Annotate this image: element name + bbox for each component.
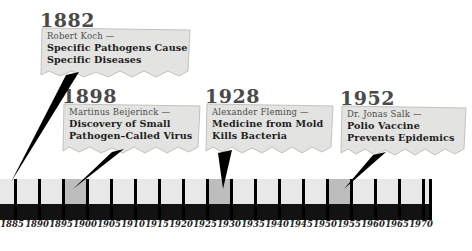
callout-1952-person: Dr. Jonas Salk — <box>347 109 460 120</box>
callout-1898-text: Martinus Beijerinck — Discovery of Small… <box>62 103 202 151</box>
callout-1882-year: 1882 <box>40 10 192 30</box>
callout-1898-year: 1898 <box>62 86 202 106</box>
ruler-highlight-1898 <box>64 179 88 204</box>
tick-label-1910: 1910 <box>121 219 145 230</box>
timeline-infographic: 1885 1890 1895 1900 1905 1910 1915 1920 … <box>0 0 472 251</box>
ruler-tick-label-group: 1885 1890 1895 1900 1905 1910 1915 1920 … <box>0 219 472 237</box>
callout-1928-year: 1928 <box>205 86 335 106</box>
tick-label-1940: 1940 <box>265 219 289 230</box>
callout-1898[interactable]: 1898 Martinus Beijerinck — Discovery of … <box>62 86 202 159</box>
callout-1928-headline-line1: Medicine from Mold <box>212 118 327 130</box>
callout-1882-person: Robert Koch — <box>47 31 184 42</box>
tick-label-1930: 1930 <box>217 219 241 230</box>
tick-label-1920: 1920 <box>169 219 193 230</box>
callout-1952-year: 1952 <box>340 88 468 108</box>
tick-label-1885: 1885 <box>0 219 24 230</box>
callout-1952-headline-line1: Polio Vaccine <box>347 120 460 132</box>
tick-label-1895: 1895 <box>49 219 73 230</box>
tick-label-1900: 1900 <box>73 219 97 230</box>
tick-label-1935: 1935 <box>241 219 265 230</box>
tick-label-1890: 1890 <box>25 219 49 230</box>
callout-1928-headline-line2: Kills Bacteria <box>212 130 327 142</box>
callout-1898-person: Martinus Beijerinck — <box>69 107 194 118</box>
callout-1952-headline-line2: Prevents Epidemics <box>347 132 460 144</box>
callout-1898-paper: Martinus Beijerinck — Discovery of Small… <box>62 103 202 159</box>
ruler-highlight-1928 <box>208 179 232 204</box>
tick-label-1945: 1945 <box>289 219 313 230</box>
callout-1898-headline-line2: Pathogen–Called Virus <box>69 130 194 142</box>
callout-1882-paper: Robert Koch — Specific Pathogens Cause S… <box>40 27 192 83</box>
callout-1928[interactable]: 1928 Alexander Fleming — Medicine from M… <box>205 86 335 159</box>
callout-1952-text: Dr. Jonas Salk — Polio Vaccine Prevents … <box>340 105 468 153</box>
callout-1952[interactable]: 1952 Dr. Jonas Salk — Polio Vaccine Prev… <box>340 88 468 161</box>
callout-1882-headline-line2: Specific Diseases <box>47 54 184 66</box>
callout-1928-paper: Alexander Fleming — Medicine from Mold K… <box>205 103 335 159</box>
tick-label-1960: 1960 <box>361 219 385 230</box>
ruler-graphic <box>0 179 472 251</box>
ruler-highlight-1952 <box>328 179 352 204</box>
callout-1882-text: Robert Koch — Specific Pathogens Cause S… <box>40 27 192 75</box>
callout-1882-headline-line1: Specific Pathogens Cause <box>47 42 184 54</box>
tick-label-1915: 1915 <box>145 219 169 230</box>
tick-label-1965: 1965 <box>385 219 409 230</box>
callout-1898-headline-line1: Discovery of Small <box>69 118 194 130</box>
timeline-ruler: 1885 1890 1895 1900 1905 1910 1915 1920 … <box>0 179 472 251</box>
tick-label-1925: 1925 <box>193 219 217 230</box>
callout-1952-paper: Dr. Jonas Salk — Polio Vaccine Prevents … <box>340 105 468 161</box>
callout-1928-person: Alexander Fleming — <box>212 107 327 118</box>
tick-label-1955: 1955 <box>337 219 361 230</box>
tick-label-1905: 1905 <box>97 219 121 230</box>
tick-label-1950: 1950 <box>313 219 337 230</box>
callout-1882[interactable]: 1882 Robert Koch — Specific Pathogens Ca… <box>40 10 192 83</box>
tick-label-1970: 1970 <box>409 219 433 230</box>
callout-1928-text: Alexander Fleming — Medicine from Mold K… <box>205 103 335 151</box>
